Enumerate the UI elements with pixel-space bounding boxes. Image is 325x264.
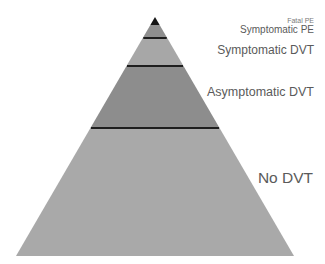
label-fatal-pe: Fatal PE bbox=[287, 17, 314, 24]
pyramid-tier-fatal-pe bbox=[150, 17, 159, 25]
pyramid-tier-symptomatic-dvt bbox=[127, 38, 184, 66]
label-symptomatic-pe: Symptomatic PE bbox=[240, 25, 314, 35]
label-no-dvt: No DVT bbox=[258, 170, 313, 186]
pyramid-tier-symptomatic-pe bbox=[143, 25, 167, 38]
label-asymptomatic-dvt: Asymptomatic DVT bbox=[207, 86, 314, 99]
pyramid-tier-no-dvt bbox=[16, 128, 294, 256]
pyramid-tier-asymptomatic-dvt bbox=[90, 66, 219, 128]
label-symptomatic-dvt: Symptomatic DVT bbox=[217, 44, 314, 56]
pyramid-diagram bbox=[0, 0, 325, 264]
